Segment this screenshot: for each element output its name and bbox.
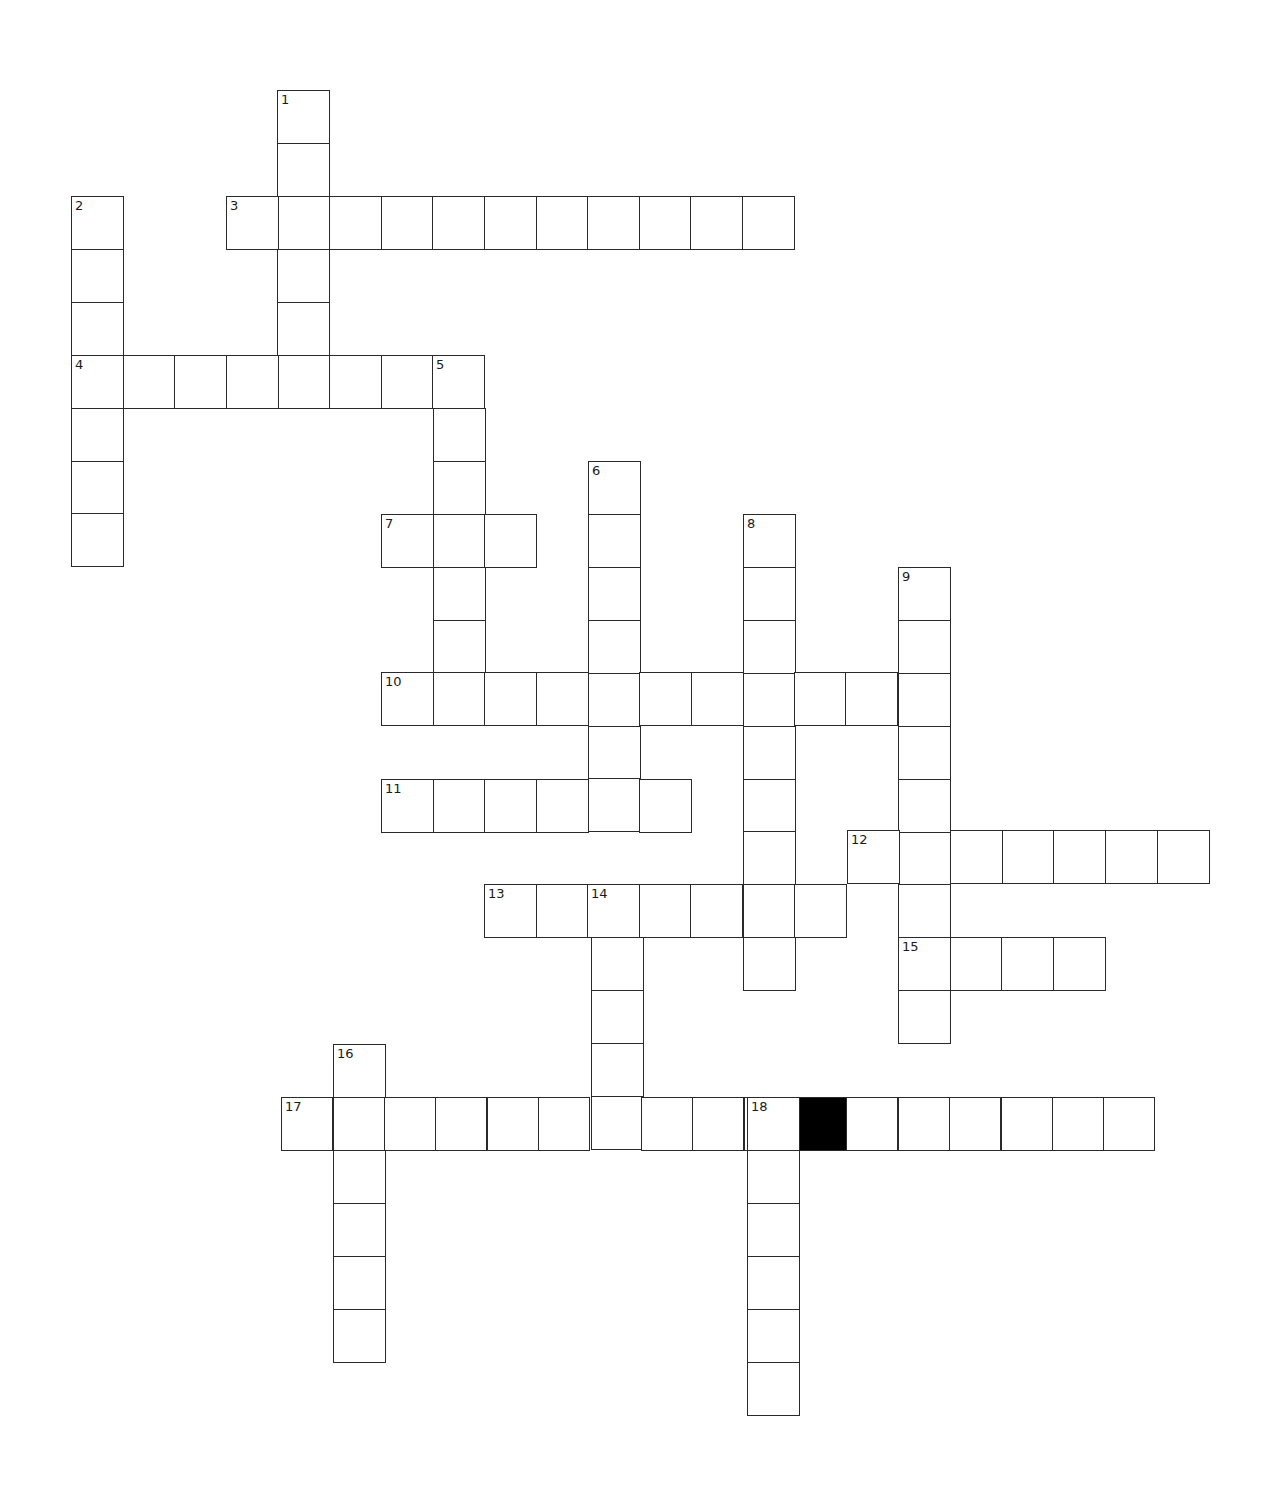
crossword-cell[interactable]: 17: [281, 1097, 333, 1151]
letter-input[interactable]: [693, 1098, 743, 1150]
letter-input[interactable]: [434, 621, 485, 673]
letter-input[interactable]: [72, 409, 123, 461]
letter-input[interactable]: [1054, 831, 1105, 883]
letter-input[interactable]: [592, 991, 643, 1043]
crossword-cell[interactable]: [536, 196, 589, 250]
crossword-cell[interactable]: [277, 355, 330, 409]
crossword-cell[interactable]: [898, 1097, 950, 1151]
letter-input[interactable]: [950, 1098, 1000, 1150]
crossword-cell[interactable]: 4: [71, 355, 124, 409]
letter-input[interactable]: [899, 833, 950, 885]
crossword-cell[interactable]: [692, 1097, 744, 1151]
letter-input[interactable]: [434, 515, 485, 567]
letter-input[interactable]: [227, 356, 278, 408]
letter-input[interactable]: [434, 780, 485, 832]
letter-input[interactable]: [382, 356, 433, 408]
letter-input[interactable]: [589, 462, 640, 514]
crossword-cell[interactable]: [333, 1256, 386, 1310]
crossword-cell[interactable]: [536, 672, 589, 726]
crossword-cell[interactable]: [484, 514, 537, 568]
letter-input[interactable]: [744, 938, 795, 990]
crossword-cell[interactable]: [71, 408, 124, 462]
crossword-cell[interactable]: [747, 1309, 800, 1363]
crossword-cell[interactable]: [484, 779, 537, 833]
crossword-cell[interactable]: [588, 567, 641, 621]
crossword-cell[interactable]: [433, 672, 486, 726]
letter-input[interactable]: [334, 1045, 385, 1097]
crossword-cell[interactable]: [1053, 830, 1106, 884]
letter-input[interactable]: [278, 303, 329, 355]
crossword-cell[interactable]: [333, 1150, 386, 1204]
crossword-cell[interactable]: [898, 832, 951, 886]
letter-input[interactable]: [899, 885, 950, 937]
crossword-cell[interactable]: [950, 830, 1003, 884]
crossword-cell[interactable]: [1103, 1097, 1155, 1151]
letter-input[interactable]: [433, 356, 484, 408]
crossword-cell[interactable]: [226, 355, 279, 409]
letter-input[interactable]: [1158, 831, 1209, 883]
letter-input[interactable]: [795, 673, 846, 725]
letter-input[interactable]: [485, 673, 536, 725]
letter-input[interactable]: [334, 1204, 385, 1256]
letter-input[interactable]: [748, 1098, 799, 1150]
letter-input[interactable]: [951, 938, 1002, 990]
letter-input[interactable]: [485, 515, 536, 567]
crossword-cell[interactable]: [950, 937, 1003, 991]
crossword-cell[interactable]: [743, 884, 796, 938]
letter-input[interactable]: [278, 91, 329, 143]
crossword-cell[interactable]: [433, 461, 486, 515]
letter-input[interactable]: [433, 197, 484, 249]
crossword-cell[interactable]: 15: [898, 937, 951, 991]
letter-input[interactable]: [744, 780, 795, 832]
crossword-cell[interactable]: [433, 567, 486, 621]
letter-input[interactable]: [795, 885, 846, 937]
crossword-cell[interactable]: [1002, 830, 1055, 884]
crossword-cell[interactable]: [742, 196, 795, 250]
crossword-cell[interactable]: [433, 779, 486, 833]
crossword-cell[interactable]: [71, 461, 124, 515]
letter-input[interactable]: [278, 250, 329, 302]
crossword-cell[interactable]: [898, 726, 951, 780]
letter-input[interactable]: [589, 621, 640, 673]
crossword-cell[interactable]: [484, 672, 537, 726]
letter-input[interactable]: [691, 885, 742, 937]
letter-input[interactable]: [640, 780, 691, 832]
crossword-cell[interactable]: [743, 726, 796, 780]
letter-input[interactable]: [485, 197, 536, 249]
crossword-cell[interactable]: [174, 355, 227, 409]
crossword-cell[interactable]: [949, 1097, 1001, 1151]
letter-input[interactable]: [382, 515, 433, 567]
crossword-cell[interactable]: [743, 831, 796, 885]
letter-input[interactable]: [72, 197, 123, 249]
crossword-cell[interactable]: [487, 1097, 539, 1151]
letter-input[interactable]: [175, 356, 226, 408]
crossword-cell[interactable]: [898, 673, 951, 727]
letter-input[interactable]: [640, 885, 691, 937]
crossword-cell[interactable]: [588, 726, 641, 780]
crossword-cell[interactable]: [277, 249, 330, 303]
crossword-cell[interactable]: [71, 513, 124, 567]
letter-input[interactable]: [899, 991, 950, 1043]
crossword-cell[interactable]: [333, 1309, 386, 1363]
crossword-cell[interactable]: [591, 1043, 644, 1097]
letter-input[interactable]: [436, 1098, 486, 1150]
crossword-cell[interactable]: 16: [333, 1044, 386, 1098]
crossword-cell[interactable]: [277, 196, 330, 250]
letter-input[interactable]: [382, 197, 433, 249]
letter-input[interactable]: [1002, 1098, 1052, 1150]
letter-input[interactable]: [588, 885, 639, 937]
letter-input[interactable]: [899, 727, 950, 779]
crossword-cell[interactable]: [1053, 937, 1106, 991]
crossword-cell[interactable]: [384, 1097, 436, 1151]
crossword-cell[interactable]: [743, 673, 796, 727]
crossword-cell[interactable]: [71, 249, 124, 303]
crossword-cell[interactable]: [591, 1096, 644, 1150]
letter-input[interactable]: [592, 938, 643, 990]
letter-input[interactable]: [278, 197, 329, 249]
letter-input[interactable]: [330, 356, 381, 408]
letter-input[interactable]: [748, 1257, 799, 1309]
crossword-cell[interactable]: [898, 990, 951, 1044]
letter-input[interactable]: [485, 780, 536, 832]
crossword-cell[interactable]: [1001, 1097, 1053, 1151]
letter-input[interactable]: [72, 462, 123, 514]
